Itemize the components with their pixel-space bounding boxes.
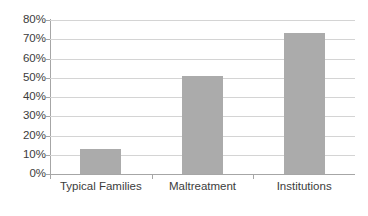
y-axis-tick	[46, 97, 50, 98]
bar	[80, 149, 121, 174]
bar	[284, 33, 325, 174]
y-axis-tick-label: 40%	[2, 91, 46, 103]
x-axis-category-label: Maltreatment	[169, 181, 236, 193]
x-axis-category-label: Institutions	[277, 181, 332, 193]
y-axis-tick-label: 60%	[2, 53, 46, 65]
y-axis-tick	[46, 136, 50, 137]
x-axis-category-label: Typical Families	[60, 181, 142, 193]
y-axis-tick-labels: 0%10%20%30%40%50%60%70%80%	[0, 20, 46, 174]
y-axis-tick-label: 20%	[2, 130, 46, 142]
y-axis-tick	[46, 78, 50, 79]
plot-area	[50, 20, 355, 174]
y-axis-tick-label: 10%	[2, 149, 46, 161]
x-axis-tick	[152, 174, 153, 179]
y-axis-tick	[46, 20, 50, 21]
y-axis-tick-label: 50%	[2, 72, 46, 84]
y-axis-tick-label: 30%	[2, 111, 46, 123]
y-axis-tick-label: 0%	[2, 168, 46, 180]
x-axis-tick	[253, 174, 254, 179]
y-axis-tick	[46, 116, 50, 117]
x-axis-tick	[50, 174, 51, 179]
y-axis-tick-label: 80%	[2, 14, 46, 26]
y-axis-tick	[46, 155, 50, 156]
y-axis-tick	[46, 39, 50, 40]
bar	[182, 76, 223, 174]
y-axis-tick	[46, 174, 50, 175]
gridline	[50, 174, 355, 175]
y-axis-tick	[46, 59, 50, 60]
gridline	[50, 20, 355, 21]
bar-chart: 0%10%20%30%40%50%60%70%80% Typical Famil…	[0, 0, 368, 216]
x-axis-category-labels: Typical FamiliesMaltreatmentInstitutions	[50, 181, 355, 201]
y-axis-tick-label: 70%	[2, 34, 46, 46]
